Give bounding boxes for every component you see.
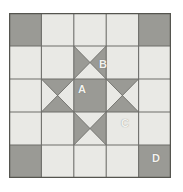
quilt-block (9, 13, 171, 178)
cell-r1c5-dark (139, 13, 171, 46)
figure-canvas: A B C D (0, 0, 183, 192)
patch-center-square-a (74, 79, 106, 112)
quilt-block-svg (9, 13, 171, 178)
cell-r1c1-dark (9, 13, 41, 46)
cell-r5c5-dark-d (139, 145, 171, 178)
cell-r5c1-dark (9, 145, 41, 178)
